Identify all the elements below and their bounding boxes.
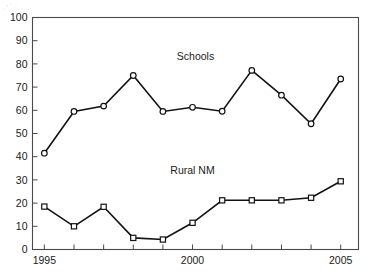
y-tick-label: 50 xyxy=(16,127,28,139)
series-lines xyxy=(44,70,340,239)
data-point-schools-2005 xyxy=(338,76,344,82)
y-tick-label: 70 xyxy=(16,81,28,93)
x-tick-label: 2000 xyxy=(181,254,205,266)
x-tick-label: 1995 xyxy=(33,254,57,266)
data-point-schools-2003 xyxy=(279,92,285,98)
data-point-rural-nm-2004 xyxy=(308,195,313,200)
data-point-rural-nm-1997 xyxy=(101,204,106,209)
y-tick-label: 60 xyxy=(16,104,28,116)
y-tick-label: 40 xyxy=(16,150,28,162)
y-axis-ticks xyxy=(33,18,38,250)
data-point-schools-1995 xyxy=(42,150,48,156)
y-tick-label: 100 xyxy=(10,11,28,23)
x-tick-label: 2005 xyxy=(329,254,353,266)
data-point-schools-1999 xyxy=(160,109,166,115)
series-line-rural-nm xyxy=(44,181,340,239)
data-point-schools-2004 xyxy=(308,121,314,127)
data-point-schools-1997 xyxy=(101,103,107,109)
series-annotation-schools: Schools xyxy=(177,50,214,62)
y-tick-label: 80 xyxy=(16,58,28,70)
y-tick-label: 30 xyxy=(16,174,28,186)
series-annotations: SchoolsRural NM xyxy=(170,50,214,176)
y-tick-label: 20 xyxy=(16,197,28,209)
data-point-schools-1996 xyxy=(71,109,77,115)
data-point-rural-nm-1998 xyxy=(131,235,136,240)
data-point-schools-2001 xyxy=(219,108,225,114)
series-markers xyxy=(42,68,344,243)
data-point-rural-nm-2005 xyxy=(338,179,343,184)
y-tick-label: 10 xyxy=(16,220,28,232)
line-chart-svg: 0102030405060708090100 199520002005 Scho… xyxy=(0,0,376,275)
data-point-rural-nm-2002 xyxy=(249,198,254,203)
series-line-schools xyxy=(44,70,340,153)
y-tick-label: 0 xyxy=(22,243,28,255)
chart-figure: 0102030405060708090100 199520002005 Scho… xyxy=(0,0,376,275)
data-point-rural-nm-2000 xyxy=(190,220,195,225)
data-point-schools-1998 xyxy=(130,73,136,79)
data-point-rural-nm-2003 xyxy=(279,198,284,203)
data-point-schools-2000 xyxy=(190,104,196,110)
y-axis-tick-labels: 0102030405060708090100 xyxy=(10,11,28,255)
series-annotation-rural-nm: Rural NM xyxy=(170,164,214,176)
data-point-schools-2002 xyxy=(249,68,255,74)
data-point-rural-nm-1996 xyxy=(71,224,76,229)
x-axis-ticks xyxy=(44,245,340,250)
data-point-rural-nm-1995 xyxy=(42,204,47,209)
x-axis-tick-labels: 199520002005 xyxy=(33,254,353,266)
scan-artifact-specks xyxy=(4,3,17,10)
data-point-rural-nm-1999 xyxy=(160,237,165,242)
data-point-rural-nm-2001 xyxy=(220,198,225,203)
y-tick-label: 90 xyxy=(16,34,28,46)
